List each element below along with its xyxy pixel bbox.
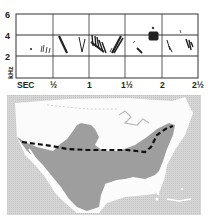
- range-map: [7, 95, 201, 215]
- x-tick-1-5: 1½: [121, 80, 133, 90]
- sonogram-chart: 6 4 2 kHz SEC ½ 1 1½ 2 2½: [0, 0, 208, 92]
- sonogram-frame: [16, 14, 198, 78]
- x-tick-2: 2: [160, 80, 165, 90]
- x-tick-half: ½: [50, 80, 57, 90]
- x-axis-label: SEC: [17, 80, 34, 90]
- y-axis-label: kHz: [7, 66, 14, 79]
- x-tick-2-5: 2½: [192, 80, 204, 90]
- y-tick-2: 2: [5, 52, 10, 62]
- y-tick-4: 4: [5, 31, 10, 41]
- x-tick-1: 1: [87, 80, 92, 90]
- y-tick-6: 6: [5, 10, 10, 20]
